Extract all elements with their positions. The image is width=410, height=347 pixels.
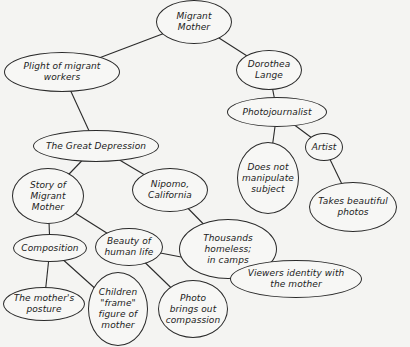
node-takes-beautiful-photos: Takes beautiful photos <box>309 182 397 232</box>
node-migrant-mother: Migrant Mother <box>156 0 232 44</box>
node-story-of-migrant-mother: Story of Migrant Mother <box>12 168 84 224</box>
node-beauty-of-human-life: Beauty of human life <box>95 228 163 266</box>
concept-map: Migrant Mother Plight of migrant workers… <box>0 0 410 347</box>
node-does-not-manipulate: Does not manipulate subject <box>237 142 299 214</box>
node-viewers-identity: Viewers identity with the mother <box>230 260 362 298</box>
node-great-depression: The Great Depression <box>33 130 159 162</box>
node-photo-compassion: Photo brings out compassion <box>158 280 228 338</box>
node-nipomo-california: Nipomo, California <box>132 168 208 212</box>
node-plight-of-migrant-workers: Plight of migrant workers <box>4 52 120 92</box>
node-composition: Composition <box>13 234 87 262</box>
node-artist: Artist <box>305 133 343 161</box>
node-mothers-posture: The mother's posture <box>3 287 85 321</box>
node-photojournalist: Photojournalist <box>227 97 327 127</box>
node-dorothea-lange: Dorothea Lange <box>236 50 302 90</box>
node-children-frame: Children "frame" figure of mother <box>88 272 148 346</box>
